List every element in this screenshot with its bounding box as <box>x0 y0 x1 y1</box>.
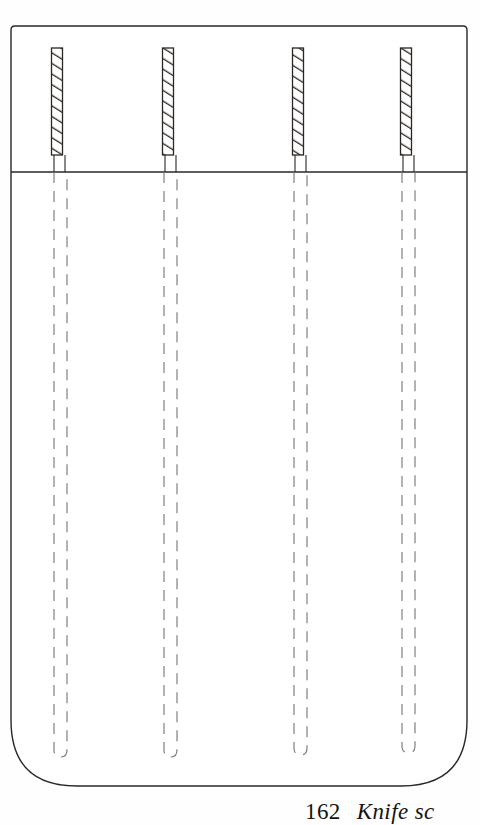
sheath-outline-group <box>11 26 467 786</box>
hatched-bar-2 <box>163 48 174 155</box>
hatched-bar-4 <box>401 48 412 155</box>
knife-sheath-drawing <box>0 0 480 825</box>
figure-plate: 162Knife sc <box>0 0 480 825</box>
hatched-bar-1 <box>52 48 63 155</box>
hatched-bar-3 <box>293 48 304 155</box>
sheath-outline-path <box>11 26 467 786</box>
